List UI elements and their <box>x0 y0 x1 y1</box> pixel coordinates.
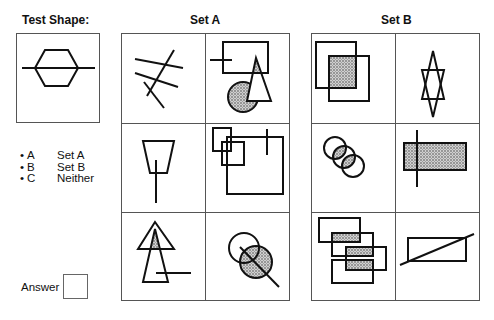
set-b-cell-2-1 <box>324 137 364 177</box>
set-b-cell-1-1 <box>316 42 369 101</box>
set-a-cell-3-2 <box>229 233 279 287</box>
set-b-cell-3-1 <box>319 218 386 283</box>
set-b-cell-1-2 <box>422 51 444 117</box>
set-a-cell-3-1 <box>138 222 191 282</box>
set-b-cell-2-2 <box>404 130 466 187</box>
set-a-cell-2-2 <box>213 128 283 194</box>
test-shape-box <box>17 34 100 123</box>
set-a-cell-1-2 <box>210 42 271 112</box>
set-a-cell-2-1 <box>143 141 174 203</box>
set-a-cell-1-1 <box>135 50 183 108</box>
diagram-canvas <box>0 0 494 320</box>
set-b-cell-3-2 <box>400 234 474 265</box>
